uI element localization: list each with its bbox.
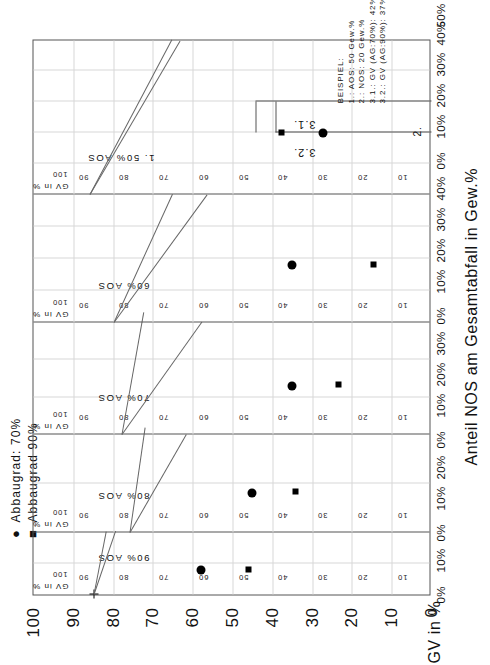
panel-y-label: 80 (118, 412, 128, 421)
main-y-label: 10 (381, 607, 401, 651)
panel-y-label: 30 (317, 300, 327, 309)
plot-frame: GV in % 100 90 80 70 60 50 40 30 20 10 9… (32, 39, 430, 595)
main-x-label: 20% (434, 455, 446, 479)
filled-circle-icon: ● (8, 526, 21, 540)
panel-y-label: 70 (158, 172, 168, 181)
main-x-label: 30% (434, 207, 446, 231)
panel-y-label: 10 (397, 172, 407, 181)
gridline (33, 289, 429, 290)
panel-y-label: 70 (158, 572, 168, 581)
panel-80-aos: GV in % 100 90 80 70 60 50 40 30 20 10 8… (33, 434, 429, 532)
panel-y-label: 30 (317, 572, 327, 581)
panel-y-label-100: 100 (51, 169, 67, 178)
panel-70-aos: GV in % 100 90 80 70 60 50 40 30 20 10 7… (33, 322, 429, 434)
panel-y-label: 20 (357, 172, 367, 181)
series-line-abbaugrad-90 (89, 40, 180, 194)
panel-y-label-100: 100 (51, 409, 67, 418)
gridline (33, 396, 429, 397)
main-y-label: 90 (63, 607, 83, 651)
data-point-abbaugrad-90 (245, 566, 251, 572)
main-y-label: 40 (262, 607, 282, 651)
panel-y-label: 60 (198, 300, 208, 309)
panel-y-label: 80 (118, 510, 128, 519)
panel-y-label: 50 (238, 572, 248, 581)
panel-y-label: 50 (238, 300, 248, 309)
main-y-label: 20 (341, 607, 361, 651)
panel-label-80-aos: 80% AOS (97, 490, 149, 501)
main-y-label: 0 (421, 607, 441, 651)
panel-y-label: 10 (397, 510, 407, 519)
data-point-abbaugrad-70 (318, 128, 327, 137)
gridline (73, 40, 74, 194)
gridline (33, 482, 429, 483)
gridline (232, 322, 233, 434)
guide-line-3-1 (255, 101, 256, 132)
data-point-abbaugrad-70 (196, 565, 205, 574)
panel-y-label: 30 (317, 510, 327, 519)
main-x-label: 0% (434, 431, 446, 448)
main-y-label: 50 (222, 607, 242, 651)
panel-50-aos: GV in % 100 90 80 70 60 50 40 30 20 10 1… (33, 40, 429, 194)
main-y-label: 60 (182, 607, 202, 651)
main-x-label: 20% (434, 238, 446, 262)
panel-60-aos: GV in % 100 90 80 70 60 50 40 30 20 10 6… (33, 194, 429, 322)
panel-y-label: 10 (397, 572, 407, 581)
data-point-abbaugrad-70 (287, 260, 296, 269)
main-x-label: 10% (434, 548, 446, 572)
series-line-abbaugrad-70 (121, 312, 144, 434)
panel-y-label-100: 100 (51, 297, 67, 306)
panel-y-label: 70 (158, 510, 168, 519)
panel-y-label: 90 (78, 572, 88, 581)
panel-y-label: 20 (357, 572, 367, 581)
panel-y-label: 70 (158, 300, 168, 309)
gridline (312, 40, 313, 194)
main-x-label: 10% (434, 269, 446, 293)
beispiel-step-2-marker: 2. (411, 126, 422, 136)
beispiel-line-4: 3.2.: GV (AG:90%): 37% (377, 0, 388, 103)
main-y-label: 80 (103, 607, 123, 651)
gridline (113, 322, 114, 434)
main-x-label: 0% (434, 586, 446, 603)
panel-90-aos: GV in % 100 90 80 70 60 50 40 30 20 10 9… (33, 532, 429, 594)
main-y-label: 30 (302, 607, 322, 651)
gridline (152, 40, 153, 194)
gridline (192, 322, 193, 434)
panel-y-title: GV in % (32, 181, 68, 190)
main-x-label: 10% (434, 114, 446, 138)
gridline (391, 322, 392, 434)
gridline (152, 322, 153, 434)
gridline (113, 40, 114, 194)
panel-y-label: 60 (198, 412, 208, 421)
panel-y-label: 90 (78, 412, 88, 421)
main-x-label: 50% (434, 3, 446, 27)
main-x-axis-title: Anteil NOS am Gesamtabfall in Gew.% (462, 167, 480, 465)
panel-y-title: GV in % (32, 309, 68, 318)
main-x-label: 20% (434, 362, 446, 386)
panel-y-label: 90 (78, 300, 88, 309)
data-point-abbaugrad-90 (292, 489, 298, 495)
panel-y-label: 50 (238, 412, 248, 421)
panel-y-label: 90 (78, 172, 88, 181)
beispiel-line-3: 3.1.: GV (AG:70%): 42% (367, 0, 378, 103)
gridline (192, 40, 193, 194)
panel-label-50-aos: 1. 50% AOS (86, 152, 154, 163)
panel-label-70-aos: 70% AOS (97, 392, 149, 403)
panel-y-label: 80 (118, 572, 128, 581)
gridline (73, 322, 74, 434)
guide-label-3-2: 3.2. (293, 146, 315, 158)
main-x-label: 0% (434, 307, 446, 324)
beispiel-block: BEISPIEL: 1.: AOS: 50 Gew.% 2.: NOS: 20 … (335, 0, 388, 103)
legend-item-abbaugrad-70: ● Abbaugrad: 70% (6, 417, 23, 540)
panel-y-title: GV in % (32, 519, 68, 528)
panel-y-label: 10 (397, 412, 407, 421)
beispiel-line-1: 1.: AOS: 50 Gew.% (346, 0, 357, 103)
data-point-abbaugrad-90 (335, 382, 341, 388)
gridline (272, 40, 273, 194)
panel-y-label: 10 (397, 300, 407, 309)
main-x-label: 30% (434, 331, 446, 355)
panel-y-label: 60 (198, 172, 208, 181)
data-point-abbaugrad-70 (247, 488, 256, 497)
main-x-label: 10% (434, 486, 446, 510)
panel-y-label-100: 100 (51, 507, 67, 516)
rotated-figure-wrapper: ● Abbaugrad: 70% ■ Abbaugrad 90% GV in %… (0, 0, 490, 665)
